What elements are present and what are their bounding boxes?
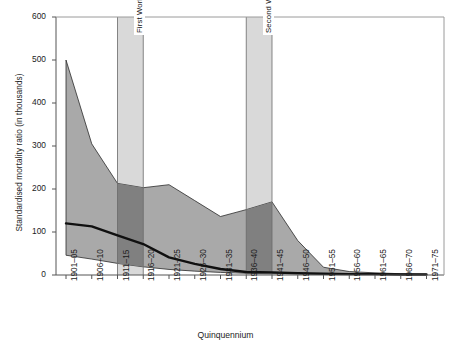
x-tick-label: 1966–70 [405,249,414,281]
chart-figure: Standardised mortality ratio (in thousan… [0,0,451,345]
y-tick-label: 0 [18,269,46,279]
y-tick-label: 200 [18,183,46,193]
y-tick-label: 100 [18,226,46,236]
x-axis-title: Quinquennium [0,330,451,340]
x-tick-label: 1961–65 [379,249,388,281]
y-tick-label: 300 [18,140,46,150]
x-tick-label: 1931–35 [225,249,234,281]
y-tick-label: 400 [18,97,46,107]
x-tick-label: 1951–55 [328,249,337,281]
y-tick-label: 500 [18,54,46,64]
x-tick-label: 1926–30 [199,249,208,281]
x-tick-label: 1956–60 [353,249,362,281]
x-tick-label: 1921–25 [173,249,182,281]
x-tick-label: 1936–40 [250,249,259,281]
war-band-label-second: Second World War [263,0,274,35]
x-tick-label: 1941–45 [276,249,285,281]
x-tick-label: 1916–20 [147,249,156,281]
chart-plot-area [0,0,451,345]
x-tick-label: 1906–10 [96,249,105,281]
x-tick-label: 1946–50 [302,249,311,281]
x-tick-label: 1971–75 [431,249,440,281]
y-tick-label: 600 [18,11,46,21]
war-band-label-first: First World War [134,0,145,35]
x-tick-label: 1901–05 [70,249,79,281]
x-tick-label: 1911–15 [122,250,131,281]
